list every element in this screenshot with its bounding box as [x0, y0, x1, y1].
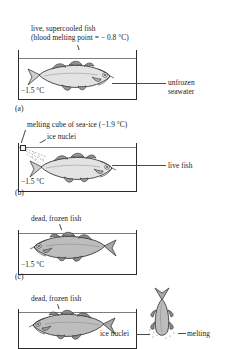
- panel-a-id: (a): [15, 104, 23, 113]
- panel-d-caption: dead, frozen fish: [31, 294, 81, 303]
- panel-a-temperature: −1.5 °C: [21, 86, 44, 95]
- panel-c-temperature: −1.5 °C: [21, 260, 44, 269]
- panel-b-caption-line1: melting cube of sea-ice (−1.9 °C): [27, 120, 127, 129]
- panel-b-right-label: live fish: [168, 161, 192, 170]
- panel-a-right-leader: [112, 83, 166, 84]
- panel-d-melting-leader: [178, 333, 186, 334]
- panel-a-caption-line1: live, supercooled fish: [31, 24, 96, 33]
- panel-b-caption-line2: ice nuclei: [47, 132, 76, 141]
- panel-d: dead, frozen fish: [0, 284, 227, 342]
- panel-a-right-label-line2: seawater: [168, 87, 194, 96]
- panel-d-melting-label: melting: [187, 329, 210, 338]
- panel-d-ice-nuclei-leader: [136, 334, 150, 335]
- panel-a-right-label-line1: unfrozen: [168, 78, 195, 87]
- panel-b-temperature: −1.5 °C: [21, 177, 44, 186]
- panel-b-right-leader: [112, 165, 166, 166]
- panel-a-waterline: [19, 58, 136, 59]
- panel-b: melting cube of sea-ice (−1.9 °C) ice nu…: [0, 118, 227, 200]
- panel-c-id: (c): [15, 272, 23, 281]
- panel-b-id: (b): [15, 188, 24, 197]
- panel-a-caption-line2: (blood melting point = − 0.8 °C): [31, 33, 129, 42]
- panel-d-ice-nuclei-label: ice nuclei: [100, 329, 129, 338]
- panel-a: live, supercooled fish (blood melting po…: [0, 0, 227, 118]
- panel-c-caption: dead, frozen fish: [31, 214, 81, 223]
- panel-c: dead, frozen fish −1.5 °C: [0, 200, 227, 284]
